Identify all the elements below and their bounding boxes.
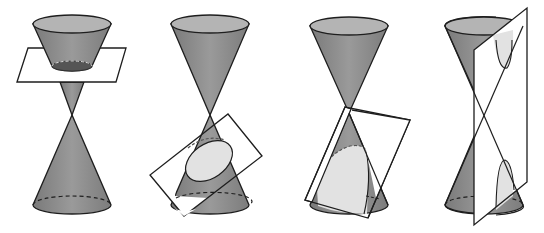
panel-circle (17, 15, 126, 214)
lower-cone (33, 115, 111, 214)
conic-sections-diagram (0, 0, 544, 233)
upper-cone (171, 15, 249, 115)
panel-ellipse (150, 15, 262, 216)
panel-parabola (305, 17, 410, 218)
panel-hyperbola (445, 8, 527, 225)
upper-cone (310, 17, 388, 113)
upper-cone-tip (60, 82, 84, 115)
